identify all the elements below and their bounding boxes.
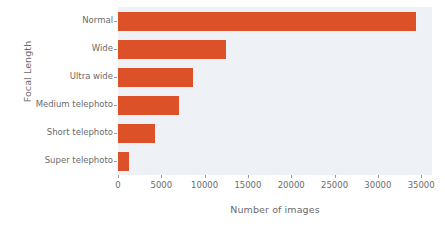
x-tick-mark: [118, 175, 119, 178]
x-tick-mark: [335, 175, 336, 178]
y-tick-label: Super telephoto: [0, 155, 113, 165]
x-tick-mark: [248, 175, 249, 178]
y-tick-label: Medium telephoto: [0, 99, 113, 109]
bar: [118, 124, 155, 143]
x-tick-label: 10000: [191, 180, 218, 190]
bar: [118, 96, 179, 115]
x-tick-mark: [161, 175, 162, 178]
bar: [118, 40, 226, 59]
bar: [118, 152, 129, 171]
x-tick-label: 5000: [150, 180, 172, 190]
x-tick-label: 20000: [278, 180, 305, 190]
y-tick-mark: [114, 49, 117, 50]
x-tick-label: 15000: [234, 180, 261, 190]
bar: [118, 12, 416, 31]
y-tick-label: Short telephoto: [0, 127, 113, 137]
y-tick-mark: [114, 133, 117, 134]
y-tick-mark: [114, 21, 117, 22]
y-tick-label: Normal: [0, 15, 113, 25]
x-tick-mark: [291, 175, 292, 178]
bar: [118, 68, 193, 87]
x-tick-mark: [421, 175, 422, 178]
y-tick-label: Wide: [0, 43, 113, 53]
x-tick-mark: [205, 175, 206, 178]
x-tick-mark: [378, 175, 379, 178]
y-tick-mark: [114, 105, 117, 106]
y-tick-mark: [114, 77, 117, 78]
x-tick-label: 30000: [364, 180, 391, 190]
x-axis-title: Number of images: [118, 204, 432, 215]
x-tick-label: 35000: [408, 180, 435, 190]
x-tick-label: 25000: [321, 180, 348, 190]
y-tick-mark: [114, 161, 117, 162]
y-tick-label: Ultra wide: [0, 71, 113, 81]
x-tick-label: 0: [115, 180, 120, 190]
plot-area: [118, 7, 432, 175]
bar-chart-figure: Focal Length Number of images NormalWide…: [0, 0, 445, 232]
